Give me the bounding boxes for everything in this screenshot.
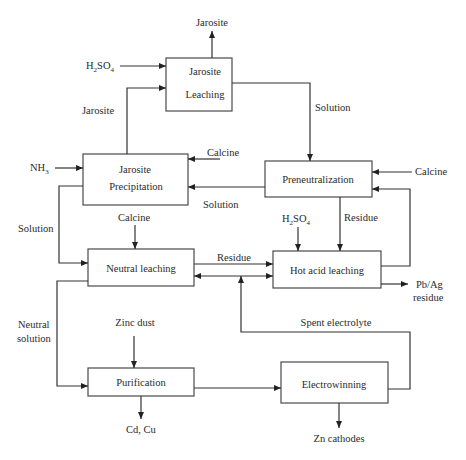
- label-zinc-dust: Zinc dust: [115, 317, 154, 328]
- label-h2so4-mid: H2SO4: [282, 213, 311, 227]
- preneutralization-label: Preneutralization: [282, 174, 354, 185]
- purification-label: Purification: [116, 377, 166, 388]
- svg-text:H2SO4: H2SO4: [282, 213, 311, 227]
- label-solution-mid: Solution: [203, 199, 239, 210]
- box-electrowinning: Electrowinning: [281, 362, 388, 403]
- label-jarosite-recycle: Jarosite: [82, 105, 114, 116]
- label-solution-left: Solution: [18, 223, 54, 234]
- electrowinning-label: Electrowinning: [302, 379, 367, 390]
- jarosite-precipitation-label-2: Precipitation: [109, 181, 163, 192]
- label-neutral-solution-2: solution: [17, 333, 52, 344]
- box-jarosite-precipitation: Jarosite Precipitation: [83, 154, 188, 205]
- zinc-process-flowchart: Jarosite Leaching Jarosite Precipitation…: [0, 0, 466, 460]
- box-hot-acid-leaching: Hot acid leaching: [273, 251, 381, 288]
- label-cd-cu: Cd, Cu: [126, 424, 157, 435]
- svg-text:H2SO4: H2SO4: [86, 60, 115, 74]
- box-neutral-leaching: Neutral leaching: [88, 249, 194, 286]
- neutral-leaching-label: Neutral leaching: [106, 263, 176, 274]
- box-jarosite-leaching: Jarosite Leaching: [166, 58, 232, 111]
- label-residue-mid: Residue: [217, 252, 251, 263]
- jarosite-leaching-label-2: Leaching: [185, 89, 225, 100]
- label-residue-preneut: Residue: [344, 212, 378, 223]
- label-h2so4-top: H2SO4: [86, 60, 115, 74]
- label-pbag-2: residue: [413, 292, 444, 303]
- label-spent-electrolyte: Spent electrolyte: [301, 317, 372, 328]
- label-neutral-solution-1: Neutral: [18, 319, 50, 330]
- label-zn-cathodes: Zn cathodes: [313, 433, 364, 444]
- label-calcine-precip: Calcine: [207, 147, 239, 158]
- jarosite-precipitation-label-1: Jarosite: [119, 164, 151, 175]
- label-calcine-neutral: Calcine: [118, 212, 150, 223]
- hot-acid-leaching-label: Hot acid leaching: [290, 265, 365, 276]
- label-nh3: NH3: [30, 162, 49, 176]
- label-pbag-1: Pb/Ag: [416, 279, 444, 290]
- label-solution-right: Solution: [315, 102, 351, 113]
- box-purification: Purification: [88, 368, 194, 396]
- svg-text:NH3: NH3: [30, 162, 49, 176]
- jarosite-leaching-label-1: Jarosite: [189, 66, 221, 77]
- label-jarosite-out: Jarosite: [196, 17, 228, 28]
- label-calcine-preneut: Calcine: [415, 166, 447, 177]
- box-preneutralization: Preneutralization: [265, 161, 372, 197]
